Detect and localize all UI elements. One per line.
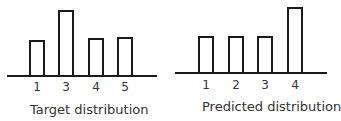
predicted-caption: Predicted distribution xyxy=(202,99,341,115)
predicted-bar-1 xyxy=(198,36,214,73)
predicted-bar-3 xyxy=(257,36,273,73)
predicted-tick-label: 2 xyxy=(228,78,244,92)
predicted-bar-4 xyxy=(287,7,303,73)
predicted-bar-2 xyxy=(228,36,244,73)
predicted-x-axis xyxy=(175,72,327,74)
predicted-tick-label: 3 xyxy=(257,78,273,92)
predicted-tick-label: 1 xyxy=(198,78,214,92)
predicted-tick-label: 4 xyxy=(287,78,303,92)
